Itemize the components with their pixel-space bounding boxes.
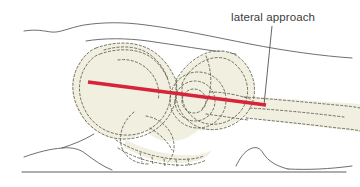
anatomy-illustration bbox=[0, 0, 360, 187]
lateral-approach-label: lateral approach bbox=[231, 11, 315, 24]
leader-line bbox=[264, 26, 272, 105]
bone-fill bbox=[72, 43, 360, 163]
lateral-approach-figure: lateral approach bbox=[0, 0, 360, 187]
